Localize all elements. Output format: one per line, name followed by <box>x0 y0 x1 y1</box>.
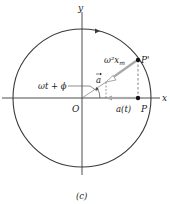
figure-caption: (c) <box>76 191 87 201</box>
y-axis-label: y <box>77 3 84 13</box>
p-prime-label: P' <box>140 55 150 65</box>
point-p-prime <box>136 58 140 62</box>
radius-line <box>82 82 106 98</box>
point-p <box>136 96 140 100</box>
angle-label: ωt + ϕ <box>38 81 67 91</box>
projection-arrowhead-icon <box>106 96 112 101</box>
origin-label: O <box>72 104 80 114</box>
projection-label: a(t) <box>116 104 131 114</box>
p-label: P <box>140 104 148 114</box>
circular-motion-diagram: y x O P' P ω²xm a ωt + ϕ a(t) (c) <box>0 0 170 204</box>
circle-direction-arrow-icon <box>95 29 100 34</box>
magnitude-label: ω²xm <box>104 55 125 66</box>
vector-a-label: a <box>96 75 101 85</box>
x-axis-label: x <box>162 93 167 103</box>
